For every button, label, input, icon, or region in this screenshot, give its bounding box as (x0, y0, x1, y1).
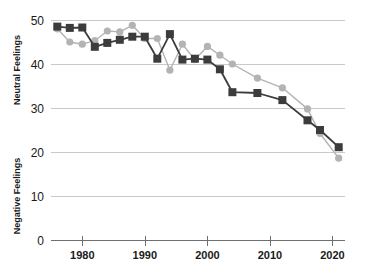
y-tick-label: 30 (31, 102, 45, 116)
data-point-dark-series-1976 (53, 23, 61, 31)
data-point-light-series-2021 (335, 155, 342, 162)
data-point-dark-series-1988 (128, 33, 136, 41)
y-tick-label: 50 (31, 14, 45, 28)
data-point-light-series-2016 (304, 105, 311, 112)
data-point-dark-series-1980 (78, 24, 86, 32)
data-point-light-series-2000 (204, 43, 211, 50)
data-point-light-series-2008 (254, 75, 261, 82)
data-point-dark-series-1998 (191, 55, 199, 63)
y-tick-label: 40 (31, 58, 45, 72)
data-point-light-series-1984 (104, 27, 111, 34)
data-point-light-series-1980 (79, 41, 86, 48)
data-point-dark-series-2021 (335, 143, 343, 151)
data-point-light-series-2004 (229, 60, 236, 67)
data-point-light-series-2002 (216, 52, 223, 59)
x-tick-label: 2000 (195, 249, 219, 261)
chart-container: 01020304050 19801990200020102020 Neutral… (0, 0, 371, 279)
x-tick-label: 1990 (133, 249, 157, 261)
y-tick-label: 10 (31, 190, 45, 204)
data-point-dark-series-2016 (304, 116, 312, 124)
data-point-light-series-2012 (279, 84, 286, 91)
data-point-dark-series-2012 (278, 96, 286, 104)
data-point-dark-series-2008 (253, 89, 261, 97)
data-point-dark-series-1978 (66, 24, 74, 32)
data-point-dark-series-1986 (116, 36, 124, 44)
x-tick-label: 1980 (70, 249, 94, 261)
y-tick-label: 0 (37, 234, 44, 248)
data-point-dark-series-1984 (103, 39, 111, 47)
data-point-light-series-1994 (166, 67, 173, 74)
data-point-dark-series-2002 (216, 65, 224, 73)
x-tick-label: 2010 (258, 249, 282, 261)
data-point-light-series-1992 (154, 35, 161, 42)
y-axis-title-negative: Negative Feelings (12, 158, 22, 235)
data-point-light-series-1986 (116, 28, 123, 35)
data-point-light-series-1978 (66, 38, 73, 45)
data-point-dark-series-1992 (153, 55, 161, 63)
data-point-dark-series-1996 (178, 56, 186, 64)
data-point-dark-series-1990 (141, 33, 149, 41)
x-tick-label: 2020 (320, 249, 344, 261)
data-point-dark-series-1982 (91, 43, 99, 51)
data-point-light-series-1996 (179, 41, 186, 48)
chart-background (0, 0, 371, 279)
y-axis-title-neutral: Neutral Feelings (12, 35, 22, 105)
y-tick-label: 20 (31, 146, 45, 160)
data-point-light-series-1988 (129, 22, 136, 29)
line-chart: 01020304050 19801990200020102020 Neutral… (0, 0, 371, 279)
data-point-dark-series-2018 (316, 126, 324, 134)
data-point-dark-series-2004 (228, 88, 236, 96)
data-point-dark-series-1994 (166, 30, 174, 38)
data-point-dark-series-2000 (203, 56, 211, 64)
